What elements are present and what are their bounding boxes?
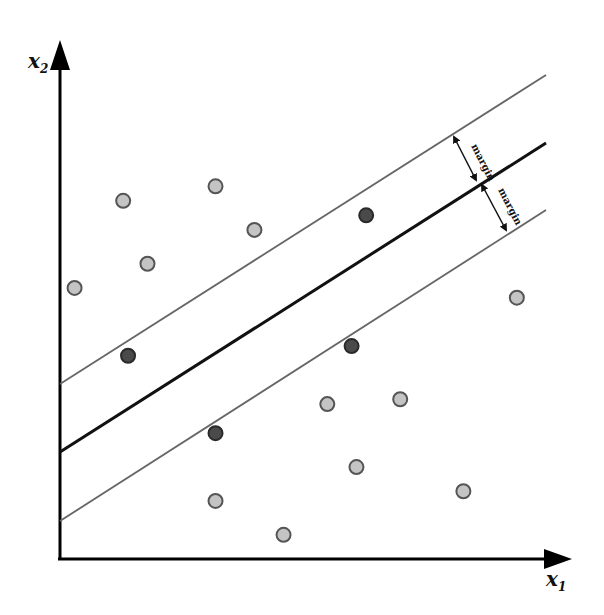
- class-b-point: [277, 528, 291, 542]
- margin-label-upper: margin: [469, 142, 497, 184]
- margin-arrow-upper: [454, 137, 476, 180]
- support-vector-b: [345, 339, 359, 353]
- support-vector-b: [209, 426, 223, 440]
- x-axis-arrowhead: [544, 549, 572, 569]
- class-b-point: [349, 460, 363, 474]
- class-b-point: [393, 392, 407, 406]
- support-vector-a: [121, 349, 135, 363]
- margin-annotations: margin margin: [454, 137, 525, 230]
- y-axis-label: x2: [27, 49, 48, 76]
- class-a-point: [140, 257, 154, 271]
- class-a-point: [68, 281, 82, 295]
- decision-boundary: [60, 143, 546, 452]
- class-b-point: [209, 494, 223, 508]
- axes: x2 x1: [27, 40, 572, 594]
- class-a-point: [209, 179, 223, 193]
- class-b-point: [510, 291, 524, 305]
- margin-label-lower: margin: [496, 186, 524, 228]
- lower-margin-line: [60, 210, 546, 521]
- upper-margin-line: [60, 75, 546, 384]
- x-axis-label: x1: [545, 567, 566, 594]
- svm-diagram: x2 x1 margin margin: [0, 0, 604, 615]
- class-a-point: [116, 194, 130, 208]
- class-b-point: [320, 397, 334, 411]
- support-vector-a: [359, 208, 373, 222]
- separating-lines: [60, 75, 546, 521]
- class-a-point: [247, 223, 261, 237]
- class-b-point: [456, 484, 470, 498]
- y-axis-arrowhead: [50, 40, 70, 70]
